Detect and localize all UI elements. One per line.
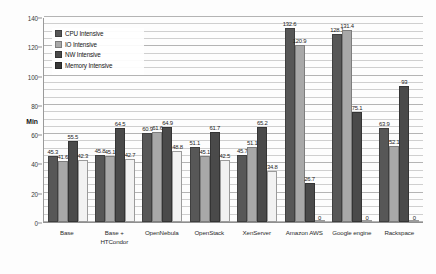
- bar[interactable]: [332, 34, 342, 222]
- legend-swatch-icon: [55, 62, 62, 69]
- bar-slot: 61.6: [152, 18, 162, 222]
- bar-slot: 131.4: [342, 18, 352, 222]
- bar-slot: 42.5: [220, 18, 230, 222]
- bar[interactable]: [247, 147, 257, 222]
- bar[interactable]: [105, 156, 115, 222]
- bar[interactable]: [237, 155, 247, 222]
- bar-value-label: 63.9: [379, 121, 389, 127]
- bar[interactable]: [220, 160, 230, 222]
- bar[interactable]: [389, 146, 399, 222]
- bar-slot: 52.1: [389, 18, 399, 222]
- bar[interactable]: [48, 156, 58, 222]
- legend-item[interactable]: CPU Intensive: [55, 30, 141, 37]
- bar[interactable]: [78, 160, 88, 222]
- bar[interactable]: [399, 86, 409, 222]
- bar-slot: 64.9: [162, 18, 172, 222]
- y-axis-tick-mark: [38, 76, 42, 77]
- bar-value-label: 0: [318, 215, 321, 221]
- bar-slot: 26.7: [305, 18, 315, 222]
- bar-value-label: 55.5: [67, 134, 77, 140]
- x-axis-category-label: Google engine: [328, 226, 376, 272]
- bar-value-label: 45.8: [95, 148, 105, 154]
- bar-value-label: 45.7: [237, 148, 247, 154]
- y-axis-tick-mark: [38, 18, 42, 19]
- legend-item[interactable]: Memory Intensive: [55, 62, 141, 69]
- legend-label: CPU Intensive: [65, 30, 103, 37]
- y-axis-tick-label: 80: [31, 102, 38, 109]
- bar-chart: 020406080100120140Min 45.341.655.542.345…: [0, 0, 436, 274]
- bar-slot: 75.1: [352, 18, 362, 222]
- bar-value-label: 0: [365, 215, 368, 221]
- legend-swatch-icon: [55, 51, 62, 58]
- bar[interactable]: [200, 156, 210, 222]
- x-axis-category-label: Amazon AWS: [281, 226, 329, 272]
- x-axis-category-label: OpenStack: [186, 226, 234, 272]
- x-axis-category-label: Rackspace: [376, 226, 424, 272]
- bar-slot: 63.9: [379, 18, 389, 222]
- bar[interactable]: [142, 133, 152, 222]
- bar-group: 128.1131.475.10: [328, 18, 375, 222]
- legend-label: IO Intensive: [65, 41, 97, 48]
- x-axis-category-label: XenServer: [233, 226, 281, 272]
- bar-group: 60.961.664.948.8: [139, 18, 186, 222]
- bar-slot: 45.1: [200, 18, 210, 222]
- bar-slot: 45.7: [237, 18, 247, 222]
- legend-label: NW Intensive: [65, 51, 101, 58]
- bar-slot: 120.9: [295, 18, 305, 222]
- bar[interactable]: [95, 155, 105, 222]
- bar-value-label: 64.5: [115, 121, 125, 127]
- bar-value-label: 45.1: [105, 149, 115, 155]
- bar[interactable]: [267, 171, 277, 222]
- bar[interactable]: [115, 128, 125, 222]
- y-axis-tick-label: 120: [28, 44, 38, 51]
- y-axis-tick-mark: [38, 105, 42, 106]
- bar[interactable]: [295, 45, 305, 222]
- bar[interactable]: [58, 161, 68, 222]
- bar[interactable]: [305, 183, 315, 222]
- bar[interactable]: [68, 141, 78, 222]
- gridline: [44, 16, 423, 17]
- legend-item[interactable]: NW Intensive: [55, 51, 141, 58]
- bar[interactable]: [285, 28, 295, 222]
- bar[interactable]: [162, 127, 172, 222]
- bar[interactable]: [342, 30, 352, 222]
- legend-label: Memory Intensive: [65, 62, 112, 69]
- y-axis-tick-mark: [38, 47, 42, 48]
- bar-group: 51.145.161.742.5: [186, 18, 233, 222]
- bar[interactable]: [125, 159, 135, 222]
- bar-value-label: 45.1: [200, 149, 210, 155]
- bar[interactable]: [172, 151, 182, 222]
- bar[interactable]: [190, 147, 200, 222]
- legend-item[interactable]: IO Intensive: [55, 41, 141, 48]
- bar-slot: 128.1: [332, 18, 342, 222]
- bar-group: 45.751.165.234.8: [234, 18, 281, 222]
- bar-value-label: 0: [413, 215, 416, 221]
- bar-value-label: 42.5: [220, 153, 230, 159]
- y-axis-title: Min: [26, 117, 38, 124]
- bar-slot: 61.7: [210, 18, 220, 222]
- bar-value-label: 42.3: [77, 153, 87, 159]
- bar-value-label: 51.1: [247, 140, 257, 146]
- bar-slot: 34.8: [267, 18, 277, 222]
- y-axis-tick-label: 40: [31, 161, 38, 168]
- bar-value-label: 64.9: [162, 120, 172, 126]
- bar[interactable]: [210, 132, 220, 222]
- y-axis-tick-label: 140: [28, 15, 38, 22]
- y-axis-tick-mark: [38, 193, 42, 194]
- bar[interactable]: [352, 112, 362, 222]
- y-axis-tick-mark: [38, 164, 42, 165]
- bar-value-label: 45.3: [47, 149, 57, 155]
- y-axis: 020406080100120140Min: [0, 0, 43, 223]
- bar-slot: 0: [315, 18, 325, 222]
- bar-slot: 0: [362, 18, 372, 222]
- legend-swatch-icon: [55, 41, 62, 48]
- bar-slot: 51.1: [247, 18, 257, 222]
- legend-swatch-icon: [55, 30, 62, 37]
- bar[interactable]: [152, 132, 162, 222]
- x-axis-labels: BaseBase +HTCondorOpenNebulaOpenStackXen…: [43, 226, 423, 272]
- bar-slot: 65.2: [257, 18, 267, 222]
- bar-value-label: 42.7: [125, 152, 135, 158]
- bar[interactable]: [379, 128, 389, 222]
- x-axis-category-label: Base: [43, 226, 91, 272]
- bar[interactable]: [257, 127, 267, 222]
